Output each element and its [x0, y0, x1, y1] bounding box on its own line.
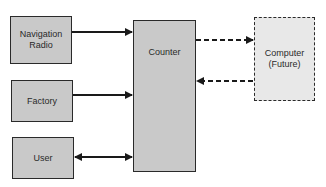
node-computer-future: Computer (Future): [254, 17, 315, 101]
node-counter: Counter: [133, 20, 196, 172]
node-navigation-radio: Navigation Radio: [10, 16, 72, 64]
node-user: User: [12, 137, 74, 179]
node-label: Factory: [27, 96, 57, 107]
node-label: Navigation Radio: [20, 29, 63, 51]
node-label: Computer (Future): [265, 48, 305, 70]
node-label: Counter: [148, 47, 180, 58]
node-factory: Factory: [11, 80, 73, 122]
node-label: User: [33, 153, 52, 164]
